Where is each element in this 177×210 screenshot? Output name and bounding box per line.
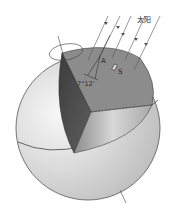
angle-label: 7°12' <box>77 80 95 88</box>
sun-label: 太阳 <box>137 15 151 24</box>
point-a-label: A <box>101 57 106 65</box>
earth-diagram: 太阳 A S 7°12' <box>0 0 177 210</box>
point-s-label: S <box>118 68 123 76</box>
